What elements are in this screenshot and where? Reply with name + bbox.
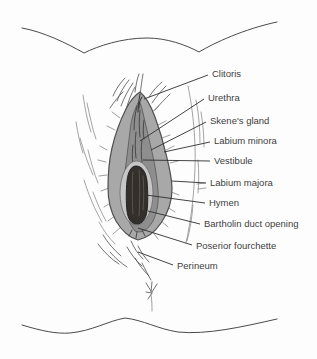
leader-line-perineum <box>138 252 173 265</box>
vaginal-opening-shape <box>126 166 148 224</box>
label-clitoris: Clitoris <box>212 68 241 79</box>
label-perineum: Perineum <box>177 260 218 271</box>
label-vestibule: Vestibule <box>214 155 253 166</box>
diagram-page: ClitorisUrethraSkene's glandLabium minor… <box>0 0 317 359</box>
label-hymen: Hymen <box>209 197 239 208</box>
leader-line-labium-minora <box>164 142 210 152</box>
top-body-contour-line <box>22 22 277 53</box>
label-skene-s-gland: Skene's gland <box>210 115 269 126</box>
label-labium-minora: Labium minora <box>214 135 278 146</box>
perineum-hair-strokes <box>98 235 157 311</box>
label-bartholin-duct-opening: Bartholin duct opening <box>204 218 299 229</box>
right-thigh-crease-hatching <box>186 86 206 243</box>
leader-line-clitoris <box>144 75 208 99</box>
label-labium-majora: Labium majora <box>210 177 274 188</box>
label-poserior-fourchette: Poserior fourchette <box>196 240 276 251</box>
bottom-body-contour-line <box>22 318 277 333</box>
leader-line-labium-majora <box>172 181 206 183</box>
anatomy-diagram: ClitorisUrethraSkene's glandLabium minor… <box>0 0 317 359</box>
label-urethra: Urethra <box>208 92 240 103</box>
